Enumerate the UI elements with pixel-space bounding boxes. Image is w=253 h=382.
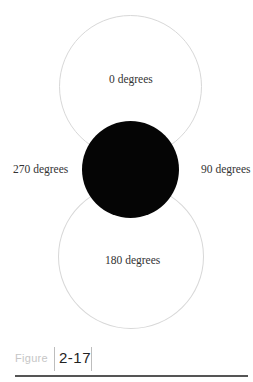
label-180-degrees: 180 degrees: [105, 254, 160, 266]
label-270-degrees: 270 degrees: [13, 163, 68, 175]
figure-caption-number: 2-17: [59, 349, 91, 366]
figure-caption-divider-left: [54, 347, 55, 371]
figure-caption-divider-right: [91, 347, 92, 371]
label-0-degrees: 0 degrees: [109, 73, 153, 85]
bottom-rule: [15, 375, 248, 377]
label-90-degrees: 90 degrees: [201, 163, 251, 175]
center-filled-circle: [82, 121, 179, 218]
figure-caption-word: Figure: [15, 352, 48, 364]
